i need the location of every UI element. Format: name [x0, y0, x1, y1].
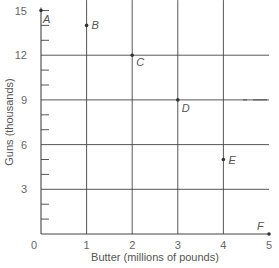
ppf-chart: 3691215012345 ABCDEF Butter (millions of… — [0, 0, 279, 268]
x-tick-label: 0 — [31, 239, 37, 251]
y-tick-label: 3 — [21, 183, 27, 195]
y-tick-label: 15 — [15, 5, 27, 17]
x-axis-label: Butter (millions of pounds) — [91, 251, 219, 263]
x-tick-label: 2 — [129, 239, 135, 251]
point-label-a: A — [42, 13, 50, 25]
x-tick-label: 4 — [220, 239, 226, 251]
y-tick-label: 12 — [15, 49, 27, 61]
tick-labels: 3691215012345 — [15, 5, 272, 252]
y-axis-label: Guns (thousands) — [3, 78, 15, 165]
x-tick-label: 5 — [266, 239, 272, 251]
grid-lines — [41, 0, 269, 234]
y-tick-label: 9 — [21, 94, 27, 106]
axes — [41, 8, 269, 234]
data-point-c — [130, 53, 134, 57]
point-label-e: E — [228, 154, 236, 166]
x-tick-label: 3 — [175, 239, 181, 251]
data-point-e — [222, 158, 226, 162]
y-tick-label: 6 — [21, 139, 27, 151]
data-point-f — [267, 232, 271, 236]
point-label-f: F — [257, 220, 265, 232]
point-label-b: B — [92, 19, 99, 31]
x-tick-label: 1 — [84, 239, 90, 251]
data-points: ABCDEF — [39, 9, 271, 236]
point-label-c: C — [136, 56, 144, 68]
point-label-d: D — [182, 102, 190, 114]
data-point-b — [85, 24, 89, 28]
data-point-d — [176, 98, 180, 102]
